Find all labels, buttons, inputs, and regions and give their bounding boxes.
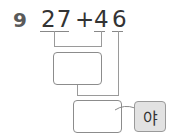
suffix-box: 야 — [134, 101, 166, 132]
connector-from-6 — [118, 31, 119, 96]
bracket-horizontal — [54, 46, 102, 47]
connector-box-down — [77, 85, 78, 95]
bracket-right-vertical — [101, 31, 102, 46]
underline-4 — [94, 31, 105, 32]
operand-27: 27 — [41, 5, 72, 33]
operand-tens-4: 4 — [94, 5, 110, 33]
curved-connector-icon — [114, 104, 136, 112]
connector-horizontal — [77, 95, 119, 96]
bracket-left-vertical — [54, 31, 55, 46]
operand-ones-6: 6 — [112, 5, 128, 33]
problem-number: 9 — [13, 8, 27, 32]
plus-sign: + — [75, 5, 95, 33]
intermediate-sum-box[interactable] — [53, 52, 102, 85]
